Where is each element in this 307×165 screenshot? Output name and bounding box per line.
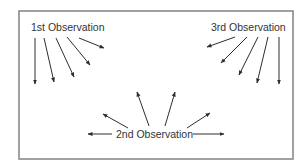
arrow: [137, 92, 149, 126]
third-observation-arrows: [207, 37, 279, 84]
observation-diagram: 1st Observation 3rd Observation 2nd Obse…: [0, 0, 307, 165]
arrow: [187, 113, 210, 128]
first-observation-arrows: [35, 37, 104, 84]
arrow: [257, 37, 268, 83]
first-observation-label: 1st Observation: [31, 21, 105, 33]
arrow: [79, 38, 104, 48]
second-observation-label: 2nd Observation: [116, 128, 193, 140]
third-observation-label: 3rd Observation: [211, 21, 286, 33]
arrow: [44, 38, 54, 82]
arrow: [56, 38, 74, 77]
arrow: [165, 92, 175, 126]
arrow: [207, 37, 235, 47]
arrow: [103, 114, 128, 128]
